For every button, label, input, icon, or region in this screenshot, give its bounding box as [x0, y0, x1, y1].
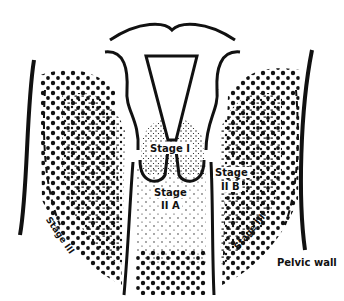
label-stage-2b-line1: Stage: [213, 167, 250, 178]
vaginal-wall-right: [211, 162, 214, 295]
label-stage-2b-line2: II B: [219, 181, 242, 192]
label-stage-2a-line1: Stage: [152, 187, 189, 198]
uterus-fundus-line: [110, 24, 235, 40]
pelvic-wall-left: [20, 60, 34, 235]
pelvic-wall-right: [301, 50, 312, 250]
label-stage-1: Stage I: [148, 143, 192, 154]
label-stage-2a-line2: II A: [159, 200, 182, 211]
vaginal-wall-left: [124, 162, 133, 295]
label-pelvic-wall: Pelvic wall: [277, 257, 337, 268]
